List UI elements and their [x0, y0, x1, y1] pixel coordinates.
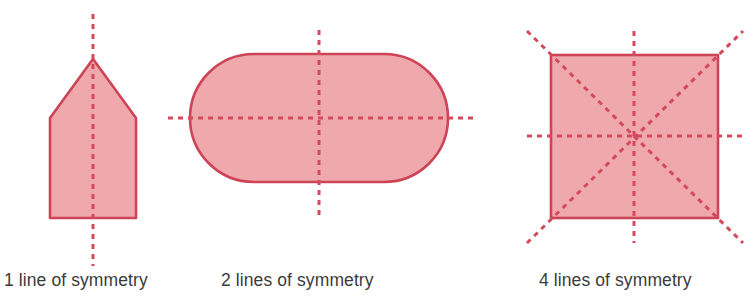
figure-container: 1 line of symmetry 2 lines of symmetry 4…: [0, 0, 756, 306]
caption-one-line-of-symmetry: 1 line of symmetry: [4, 272, 148, 290]
caption-four-lines-of-symmetry: 4 lines of symmetry: [539, 272, 692, 290]
caption-two-lines-of-symmetry: 2 lines of symmetry: [221, 272, 374, 290]
symmetry-figure: [0, 0, 756, 306]
shape-group-pentagon: [50, 14, 136, 266]
shape-group-square: [527, 31, 743, 243]
shape-group-stadium: [168, 30, 473, 216]
